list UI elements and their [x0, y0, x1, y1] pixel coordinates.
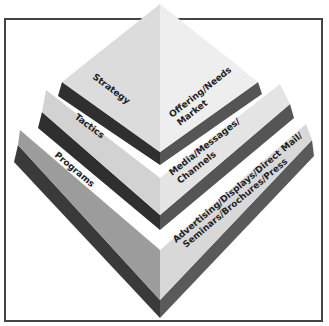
pyramid-diagram: Strategy Tactics Programs Offering/Needs… — [0, 0, 329, 326]
